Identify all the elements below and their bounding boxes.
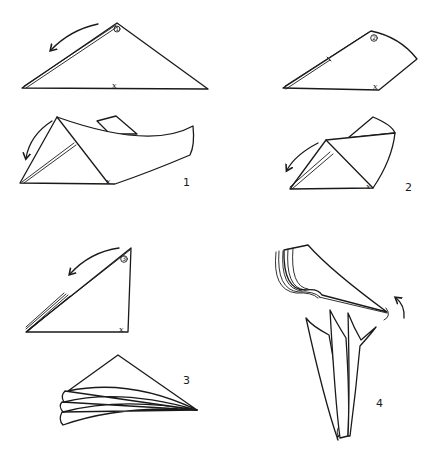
step-1-start-triangle: 1 x <box>22 23 208 90</box>
corner-mark-x: x <box>119 325 124 334</box>
step-label-1: 1 <box>183 176 190 189</box>
step-label-4: 4 <box>376 397 383 410</box>
step-label-2: 2 <box>405 181 412 194</box>
circled-marker-3: 3 <box>122 255 126 262</box>
step-1-result: x 1 <box>20 116 194 189</box>
napkin-folding-diagram: 1 x x 1 2 x x 2 <box>0 0 432 451</box>
step-3-result-fan: 3 <box>60 355 197 425</box>
step-label-3: 3 <box>183 374 190 387</box>
circled-marker-2: 2 <box>372 34 376 41</box>
step-4-fan-and-flower: 4 <box>275 245 404 440</box>
rotate-arrow-icon <box>396 298 404 318</box>
corner-mark-x: x <box>366 182 371 191</box>
step-2-start-shape: 2 x <box>283 31 417 91</box>
circled-marker-1: 1 <box>115 25 119 32</box>
step-2-result: x 2 <box>287 117 412 194</box>
step-3-start-triangle: 3 x <box>26 248 131 334</box>
corner-mark-x: x <box>106 177 111 186</box>
corner-mark-x: x <box>373 82 378 91</box>
corner-mark-x: x <box>112 81 117 90</box>
